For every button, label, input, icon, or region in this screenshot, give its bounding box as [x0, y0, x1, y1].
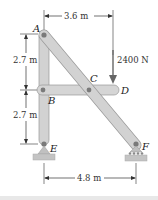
dim-lower-label: 2.7 m	[13, 110, 37, 120]
label-F: F	[141, 141, 150, 152]
label-B: B	[47, 95, 55, 106]
label-A: A	[32, 23, 40, 34]
label-E: E	[49, 143, 58, 154]
dimension-left-upper: 2.7 m	[13, 34, 38, 90]
member-BD	[37, 85, 119, 95]
label-C: C	[90, 73, 98, 84]
bottom-border	[0, 196, 158, 200]
dimension-bottom: 4.8 m	[44, 163, 136, 184]
pin-C	[87, 88, 92, 93]
load-arrow: 2400 N	[109, 50, 149, 84]
dim-upper-label: 2.7 m	[13, 55, 37, 65]
dim-bottom-label: 4.8 m	[77, 173, 101, 183]
dimension-left-lower: 2.7 m	[13, 90, 38, 144]
dim-top-label: 3.6 m	[64, 11, 88, 21]
pin-B	[41, 88, 46, 93]
pin-A	[41, 32, 46, 37]
load-label: 2400 N	[117, 55, 149, 65]
frame-diagram: 3.6 m 2.7 m 2.7 m	[0, 0, 158, 200]
label-D: D	[120, 85, 129, 96]
